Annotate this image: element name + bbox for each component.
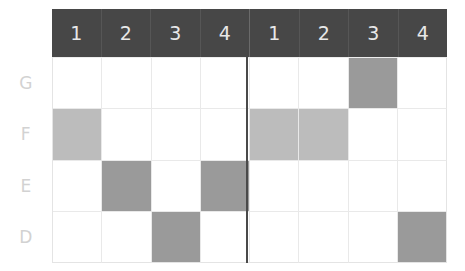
row-label-e: E	[0, 160, 52, 212]
grid-cell-e-b1-c1	[53, 161, 102, 212]
grid-cell-e-b2-c3	[349, 161, 398, 212]
grid-cell-f-b1-c1	[53, 109, 102, 160]
grid-cell-g-b1-c2	[102, 58, 151, 109]
grid-row-d	[53, 212, 447, 263]
row-label-g: G	[0, 57, 52, 109]
grid-cell-e-b1-c4	[201, 161, 250, 212]
grid-cell-g-b1-c1	[53, 58, 102, 109]
grid-cell-g-b2-c4	[398, 58, 447, 109]
grid-cell-d-b2-c4	[398, 212, 447, 263]
grid-cell-d-b1-c4	[201, 212, 250, 263]
grid-cell-d-b1-c3	[152, 212, 201, 263]
column-header-b2-c1: 1	[250, 9, 300, 57]
grid-row-e	[53, 161, 447, 212]
grid-cell-e-b2-c2	[299, 161, 348, 212]
row-label-f: F	[0, 109, 52, 161]
column-header-b1-c4: 4	[201, 9, 251, 57]
grid-cell-g-b1-c4	[201, 58, 250, 109]
grid-cell-d-b2-c3	[349, 212, 398, 263]
column-header-b2-c4: 4	[399, 9, 448, 57]
schedule-grid-figure: G F E D 1 2 3 4 1 2 3 4	[0, 0, 465, 271]
grid-cell-f-b2-c2	[299, 109, 348, 160]
grid-cell-g-b2-c3	[349, 58, 398, 109]
grid-cell-f-b1-c3	[152, 109, 201, 160]
grid-cell-f-b2-c3	[349, 109, 398, 160]
grid-body	[52, 57, 447, 263]
column-header-band: 1 2 3 4 1 2 3 4	[52, 9, 447, 57]
grid-cell-d-b2-c2	[299, 212, 348, 263]
grid-cell-g-b1-c3	[152, 58, 201, 109]
column-header-b2-c3: 3	[349, 9, 399, 57]
grid-cell-e-b1-c2	[102, 161, 151, 212]
grid-cell-e-b1-c3	[152, 161, 201, 212]
grid-cell-g-b2-c1	[250, 58, 299, 109]
grid-row-g	[53, 58, 447, 109]
grid-cell-d-b1-c2	[102, 212, 151, 263]
grid-cell-f-b1-c4	[201, 109, 250, 160]
grid-cell-f-b2-c4	[398, 109, 447, 160]
grid-cell-d-b1-c1	[53, 212, 102, 263]
block-divider	[246, 57, 248, 263]
grid-cell-g-b2-c2	[299, 58, 348, 109]
row-label-d: D	[0, 212, 52, 264]
column-header-b2-c2: 2	[300, 9, 350, 57]
grid-cell-f-b2-c1	[250, 109, 299, 160]
column-header-b1-c2: 2	[102, 9, 152, 57]
grid-cell-e-b2-c4	[398, 161, 447, 212]
grid-cell-e-b2-c1	[250, 161, 299, 212]
column-header-b1-c1: 1	[52, 9, 102, 57]
row-label-column: G F E D	[0, 57, 52, 263]
grid-row-f	[53, 109, 447, 160]
grid-cell-f-b1-c2	[102, 109, 151, 160]
grid-cell-d-b2-c1	[250, 212, 299, 263]
column-header-b1-c3: 3	[151, 9, 201, 57]
